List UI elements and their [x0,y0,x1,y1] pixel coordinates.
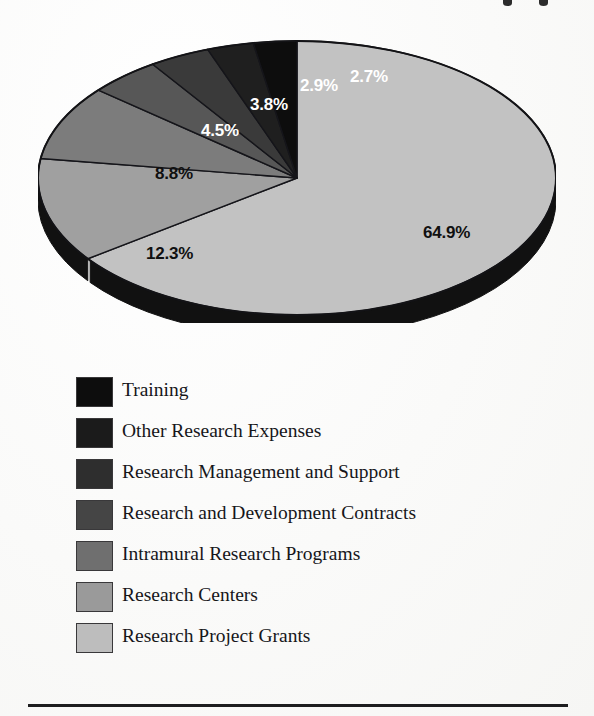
legend-item-label: Research Centers [122,580,258,610]
pie-label-29: 2.9% [300,76,338,96]
legend-swatch-icon [76,541,113,571]
legend-item: Other Research Expenses [76,416,546,457]
legend-item: Research and Development Contracts [76,498,546,539]
legend-swatch-icon [76,459,113,489]
legend-item-label: Research Project Grants [122,621,310,651]
legend-swatch-icon [76,623,113,653]
legend-swatch-icon [76,582,113,612]
legend-item-label: Research Management and Support [122,457,400,487]
legend-swatch-icon [76,377,113,407]
legend-item-label: Other Research Expenses [122,416,321,446]
pie-top-face [38,41,556,315]
pie-label-649: 64.9% [423,223,470,243]
pie-label-123: 12.3% [146,244,193,264]
legend-item-label: Research and Development Contracts [122,498,416,528]
legend-item: Research Centers [76,580,546,621]
pie-label-45: 4.5% [201,121,239,141]
legend-item: Research Project Grants [76,621,546,662]
legend-item-label: Training [122,375,188,405]
legend-item: Intramural Research Programs [76,539,546,580]
pie-chart: 64.9%12.3%8.8%4.5%3.8%2.9%2.7% [38,38,556,323]
legend: TrainingOther Research ExpensesResearch … [76,375,546,662]
pie-label-38: 3.8% [250,95,288,115]
bottom-divider [28,704,568,707]
legend-item: Research Management and Support [76,457,546,498]
pie-label-88: 8.8% [155,164,193,184]
legend-item: Training [76,375,546,416]
pie-chart-svg [38,38,556,323]
legend-item-label: Intramural Research Programs [122,539,360,569]
legend-swatch-icon [76,500,113,530]
legend-swatch-icon [76,418,113,448]
pie-label-27: 2.7% [350,67,388,87]
